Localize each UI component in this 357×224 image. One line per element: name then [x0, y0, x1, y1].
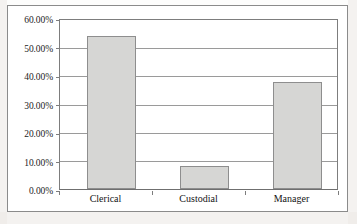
y-axis-tick-label: 40.00% — [8, 72, 53, 82]
y-axis-tick-label: 30.00% — [8, 101, 53, 111]
x-axis-category-label-custodial: Custodial — [152, 193, 245, 205]
x-axis-category-label-manager: Manager — [245, 193, 338, 205]
scan-artifact — [348, 0, 357, 224]
y-axis-tick-label: 50.00% — [8, 44, 53, 54]
y-axis-tick-label: 60.00% — [8, 15, 53, 25]
bar-chart-figure: 60.00% 50.00% 40.00% 30.00% 20.00% 10.00… — [0, 0, 357, 224]
y-axis-tick-label: 20.00% — [8, 129, 53, 139]
scan-artifact — [0, 0, 7, 224]
bar-clerical[interactable] — [87, 36, 136, 189]
x-axis-category-label-clerical: Clerical — [59, 193, 152, 205]
y-axis-tick-label: 0.00% — [8, 186, 53, 196]
scan-artifact — [0, 212, 357, 224]
x-axis-tick-mark — [338, 191, 339, 195]
y-axis-tick-label: 10.00% — [8, 158, 53, 168]
plot-area — [59, 19, 338, 190]
bar-manager[interactable] — [273, 82, 322, 189]
bar-custodial[interactable] — [180, 166, 229, 189]
